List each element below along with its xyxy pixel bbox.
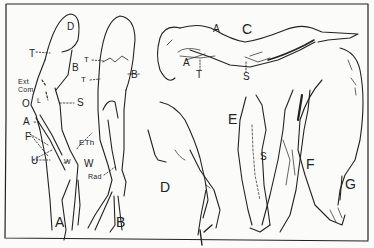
panel-letter-f: F <box>306 157 315 171</box>
anatomy-figure: D T B Ext Com L O S A F ETh U W A T T B … <box>0 0 374 248</box>
label-a-w: W <box>64 158 71 165</box>
label-e-s: S <box>260 152 267 162</box>
label-b-t2: T <box>81 76 86 84</box>
label-b-b: B <box>131 70 138 80</box>
label-c-s: S <box>243 72 250 82</box>
panel-letter-e: E <box>228 112 237 126</box>
label-a-s: S <box>77 98 84 108</box>
label-c-t: T <box>196 70 202 80</box>
label-a-com: Com <box>18 86 34 93</box>
label-a-d: D <box>67 22 74 32</box>
label-b-t1: T <box>84 56 89 64</box>
label-a-o: O <box>22 99 30 109</box>
label-c-a-top: A <box>213 24 220 34</box>
label-a-ext: Ext <box>18 78 29 85</box>
panel-letter-c: C <box>242 22 252 36</box>
label-a-t: T <box>29 49 35 59</box>
panel-letter-d: D <box>160 180 170 194</box>
panel-letter-b: B <box>116 215 125 229</box>
label-a-l: L <box>37 97 41 104</box>
label-b-w: W <box>84 159 93 169</box>
label-a-f: F <box>25 132 31 142</box>
label-a-u: U <box>31 156 38 166</box>
label-b-rad: Rad <box>88 173 102 180</box>
label-a-b: B <box>72 63 79 73</box>
label-c-a-low: A <box>183 58 190 68</box>
label-a-eth: ETh <box>79 139 95 147</box>
arm-sketches <box>0 0 374 248</box>
panel-letter-a: A <box>55 215 64 229</box>
panel-letter-g: G <box>345 177 356 191</box>
label-a-a: A <box>23 117 30 127</box>
